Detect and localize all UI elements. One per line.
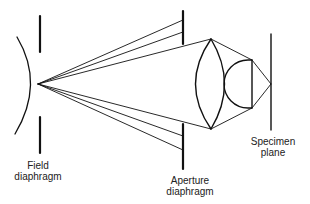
field-diaphragm-label: Field diaphragm — [8, 160, 68, 182]
curved-source-surface — [15, 37, 31, 134]
ray-fan — [38, 20, 211, 150]
biconvex-condenser-lens — [196, 39, 225, 129]
aperture-diaphragm-label-line1: Aperture — [160, 175, 220, 186]
aperture-diaphragm-label: Aperture diaphragm — [160, 175, 220, 197]
aperture-diaphragm-label-line2: diaphragm — [160, 186, 220, 197]
field-diaphragm-label-line2: diaphragm — [8, 171, 68, 182]
specimen-plane-label: Specimen plane — [243, 136, 303, 158]
hemispherical-front-lens — [224, 60, 252, 108]
field-diaphragm-label-line1: Field — [8, 160, 68, 171]
specimen-plane-label-line1: Specimen — [243, 136, 303, 147]
specimen-plane-label-line2: plane — [243, 147, 303, 158]
converging-rays — [252, 60, 271, 108]
